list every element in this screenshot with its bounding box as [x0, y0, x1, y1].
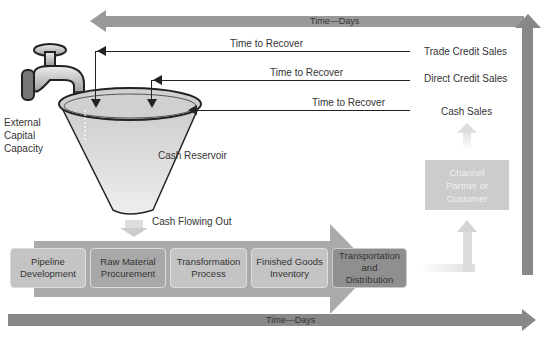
elbow-arrow-vertical [463, 230, 472, 272]
step-line: Procurement [100, 268, 155, 280]
direct-credit-line [152, 80, 410, 81]
bottom-timeline-label: Time—Days [266, 314, 315, 326]
channel-up-arrow-shaft [463, 130, 471, 150]
time-to-recover-label-3: Time to Recover [312, 97, 385, 108]
step-line: Inventory [256, 268, 323, 280]
step-line: Development [20, 268, 76, 280]
step-line: Transportation [339, 250, 400, 262]
channel-line-1: Channel [446, 166, 488, 179]
external-capital-line-2: Capital [4, 129, 43, 142]
trade-credit-drop-line [95, 51, 96, 101]
up-arrow-icon [457, 220, 477, 232]
cash-out-arrow-shaft [125, 220, 143, 228]
cash-reservoir-label: Cash Reservoir [158, 150, 227, 161]
trade-credit-line [96, 51, 410, 52]
time-to-recover-label-2: Time to Recover [270, 67, 343, 78]
cash-sales-label: Cash Sales [441, 106, 492, 117]
step-line: Raw Material [100, 256, 155, 268]
up-arrowhead-icon [515, 14, 541, 28]
arrow-left-icon [153, 75, 162, 85]
direct-credit-sales-label: Direct Credit Sales [424, 73, 507, 84]
channel-partner-box: Channel Partner or Customer [425, 160, 509, 210]
arrow-down-icon [147, 99, 157, 108]
step-transformation-process: TransformationProcess [170, 248, 247, 288]
step-pipeline-development: PipelineDevelopment [10, 248, 86, 288]
arrow-left-icon [97, 46, 106, 56]
step-line: and [339, 262, 400, 274]
channel-line-2: Partner or [446, 179, 488, 192]
step-line: Transformation [177, 256, 241, 268]
time-to-recover-label-1: Time to Recover [230, 38, 303, 49]
step-line: Finished Goods [256, 256, 323, 268]
cash-sales-line [196, 110, 410, 111]
external-capital-line-1: External [4, 116, 43, 129]
right-timeline-bar [522, 26, 533, 275]
step-line: Process [177, 268, 241, 280]
external-capital-label: External Capital Capacity [4, 116, 43, 155]
step-finished-goods-inventory: Finished GoodsInventory [251, 248, 328, 288]
step-line: Pipeline [20, 256, 76, 268]
arrow-down-icon [91, 99, 101, 108]
top-timeline-label: Time—Days [310, 16, 359, 27]
top-timeline-arrowhead-icon [90, 10, 106, 32]
bottom-timeline-arrowhead-icon [522, 309, 536, 331]
trade-credit-sales-label: Trade Credit Sales [424, 46, 507, 57]
arrow-left-icon [188, 105, 197, 115]
step-line: Distribution [339, 274, 400, 286]
external-capital-line-3: Capacity [4, 142, 43, 155]
arrow-down-icon [120, 228, 148, 237]
channel-line-3: Customer [446, 192, 488, 205]
step-transportation-distribution: TransportationandDistribution [332, 248, 407, 288]
cash-flowing-out-label: Cash Flowing Out [152, 216, 231, 227]
up-arrow-icon [457, 123, 477, 133]
step-raw-material-procurement: Raw MaterialProcurement [90, 248, 166, 288]
